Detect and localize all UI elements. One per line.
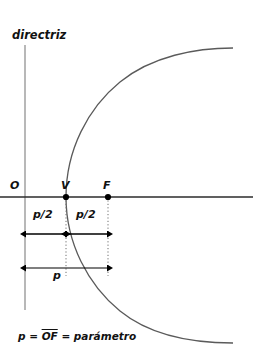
parabola-diagram (0, 0, 253, 354)
caption-prefix: p = (18, 330, 42, 342)
half-parameter-left-label: p/2 (33, 209, 53, 220)
parameter-label: p (53, 270, 61, 281)
focus-label: F (103, 180, 111, 191)
origin-label: O (10, 180, 19, 191)
vertex-point (63, 194, 69, 200)
focus-point (105, 194, 111, 200)
half-parameter-right-label: p/2 (76, 209, 96, 220)
directriz-label: directriz (12, 30, 66, 42)
caption: p = OF = parámetro (18, 331, 136, 342)
vertex-label: V (61, 180, 70, 191)
caption-segment: OF (42, 330, 58, 342)
diagram-background (0, 0, 253, 354)
caption-suffix: = parámetro (58, 330, 136, 342)
